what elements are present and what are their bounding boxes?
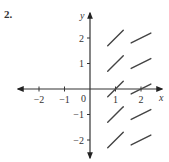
slope-segment — [108, 132, 124, 148]
x-axis-label: x — [158, 92, 164, 103]
x-tick-label: 2 — [139, 94, 144, 105]
slope-segment — [108, 107, 124, 123]
y-axis-label: y — [79, 10, 85, 21]
slope-segment — [131, 135, 151, 145]
slope-segment — [108, 56, 124, 72]
y-tick-label: 1 — [79, 58, 84, 69]
slope-segment — [131, 59, 151, 69]
slope-segment — [108, 30, 124, 46]
slope-field-plot: x y 0 −2−112 21−1−2 — [0, 0, 169, 162]
slope-segment — [131, 33, 151, 43]
y-tick-label: 2 — [79, 33, 84, 44]
slope-segment — [131, 110, 151, 120]
y-tick-label: −2 — [73, 135, 84, 146]
x-tick-label: −1 — [59, 94, 70, 105]
x-tick-label: 1 — [113, 94, 118, 105]
x-tick-label: −2 — [34, 94, 45, 105]
origin-label: 0 — [81, 93, 86, 104]
y-tick-label: −1 — [73, 109, 84, 120]
